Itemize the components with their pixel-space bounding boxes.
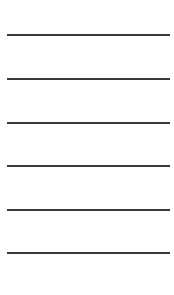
ruled-line-1 [7,34,170,36]
ruled-line-2 [7,78,170,80]
ruled-line-5 [7,209,170,211]
ruled-line-6 [7,252,170,254]
ruled-line-4 [7,165,170,167]
ruled-line-3 [7,122,170,124]
